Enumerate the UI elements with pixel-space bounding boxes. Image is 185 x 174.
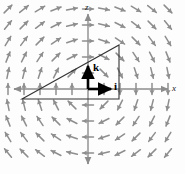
field-arrow — [20, 149, 28, 157]
field-arrow — [5, 21, 12, 30]
field-arrow — [132, 133, 140, 141]
x-axis-label: x — [172, 84, 176, 93]
field-arrow — [51, 22, 61, 27]
field-arrow — [5, 149, 12, 158]
field-arrow — [5, 84, 10, 95]
field-arrow — [164, 5, 172, 13]
field-arrow — [21, 116, 26, 126]
field-arrow — [100, 69, 108, 77]
field-arrow — [150, 68, 155, 79]
field-arrow — [133, 52, 139, 61]
field-arrow — [36, 133, 44, 141]
field-arrow — [133, 116, 139, 125]
field-arrow — [115, 134, 124, 140]
field-arrow — [22, 68, 27, 79]
field-arrow — [21, 133, 28, 142]
field-arrow — [118, 68, 123, 78]
field-arrow — [149, 100, 154, 111]
field-arrow — [134, 68, 139, 78]
k-vector-label: k — [93, 62, 99, 73]
field-arrow — [115, 151, 125, 156]
field-arrow — [52, 53, 60, 61]
field-arrow — [165, 149, 172, 158]
field-arrow — [54, 68, 59, 78]
field-arrow — [166, 68, 171, 79]
field-arrow — [21, 100, 26, 111]
field-arrow — [51, 6, 61, 11]
field-arrow — [52, 117, 60, 125]
field-arrow — [149, 37, 156, 46]
field-arrow — [149, 116, 154, 126]
field-arrow — [99, 151, 110, 156]
field-arrow — [67, 150, 78, 155]
field-arrow — [36, 37, 44, 45]
field-arrow — [21, 37, 28, 46]
field-arrow — [165, 132, 171, 141]
field-arrow — [68, 101, 76, 109]
field-arrow — [99, 7, 110, 12]
field-arrow — [99, 119, 109, 124]
field-arrow — [5, 100, 10, 111]
field-arrow — [67, 38, 77, 43]
field-arrow — [51, 134, 60, 140]
field-arrow — [67, 22, 78, 27]
field-arrow — [133, 100, 138, 110]
field-arrow — [37, 100, 42, 110]
i-vector-label: i — [114, 81, 117, 92]
field-arrow — [36, 150, 45, 157]
field-arrow — [5, 132, 11, 141]
field-arrow — [6, 52, 11, 62]
field-arrow — [116, 117, 124, 125]
field-arrow — [117, 100, 122, 110]
field-arrow — [165, 100, 170, 111]
field-arrow — [4, 5, 12, 13]
field-arrow — [116, 53, 124, 61]
field-arrow — [5, 116, 10, 126]
field-arrow — [132, 37, 140, 45]
field-arrow — [22, 52, 27, 62]
field-arrow — [100, 101, 108, 109]
field-arrow — [99, 135, 109, 140]
figure-canvas — [0, 0, 185, 174]
field-arrow — [20, 21, 28, 29]
field-arrow — [132, 150, 141, 157]
field-arrow — [51, 150, 61, 155]
z-axis-label: z — [85, 3, 89, 12]
field-arrow — [115, 38, 124, 44]
field-arrow — [115, 7, 125, 12]
field-arrow — [51, 38, 60, 44]
field-arrow — [37, 52, 43, 61]
field-arrow — [20, 6, 29, 13]
field-arrow — [6, 68, 11, 79]
field-arrow — [148, 6, 157, 13]
field-arrow — [165, 36, 171, 45]
field-arrow — [53, 100, 58, 110]
field-arrow — [131, 6, 140, 12]
field-arrow — [148, 21, 156, 29]
field-arrow — [67, 134, 77, 139]
field-arrow — [166, 52, 171, 62]
field-arrow — [150, 52, 155, 62]
field-arrow — [99, 39, 109, 44]
field-arrow — [35, 6, 44, 12]
field-arrow — [132, 22, 141, 29]
field-arrow — [67, 54, 77, 59]
field-arrow — [148, 149, 156, 157]
field-arrow — [67, 118, 77, 123]
field-arrow — [165, 116, 170, 126]
field-arrow — [149, 133, 156, 142]
field-arrow — [38, 68, 43, 78]
field-arrow — [36, 22, 45, 29]
field-arrow — [99, 23, 110, 28]
field-arrow — [5, 36, 11, 45]
vector-field-figure: x z k i — [0, 0, 185, 174]
field-arrow — [67, 6, 78, 11]
field-arrow — [115, 23, 125, 28]
field-arrow — [165, 21, 172, 30]
field-arrow — [37, 116, 43, 125]
